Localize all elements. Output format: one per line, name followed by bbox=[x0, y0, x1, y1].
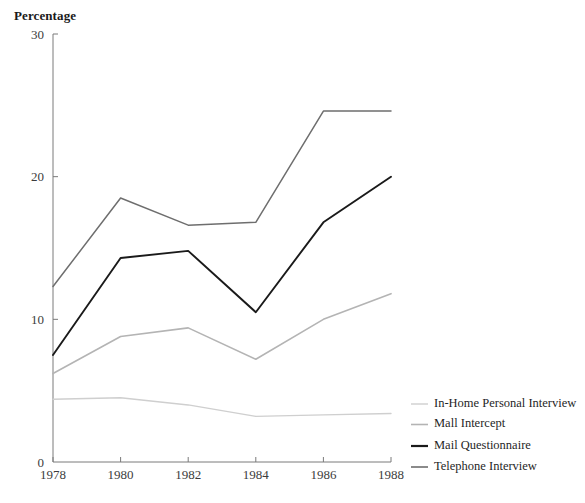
series-line bbox=[53, 177, 391, 355]
chart-legend: In-Home Personal InterviewMall Intercept… bbox=[411, 396, 576, 473]
x-axis-ticks: 197819801982198419861988 bbox=[40, 457, 404, 482]
legend-label: Mail Questionnaire bbox=[434, 438, 531, 452]
series-line bbox=[53, 111, 391, 286]
x-tick-label: 1984 bbox=[243, 467, 270, 482]
y-axis-ticks: 0102030 bbox=[31, 27, 58, 470]
legend-label: Telephone Interview bbox=[434, 459, 537, 473]
legend-label: Mall Intercept bbox=[434, 416, 506, 430]
series-line bbox=[53, 398, 391, 417]
x-tick-label: 1986 bbox=[310, 467, 337, 482]
x-tick-label: 1978 bbox=[40, 467, 66, 482]
y-tick-label: 10 bbox=[31, 312, 44, 327]
y-tick-label: 20 bbox=[31, 169, 44, 184]
chart-container: Percentage 0102030 197819801982198419861… bbox=[0, 0, 585, 503]
legend-label: In-Home Personal Interview bbox=[434, 396, 576, 410]
data-series-group bbox=[53, 111, 391, 416]
y-tick-label: 30 bbox=[31, 27, 44, 42]
x-tick-label: 1982 bbox=[175, 467, 201, 482]
series-line bbox=[53, 294, 391, 374]
line-chart-svg: 0102030 197819801982198419861988 In-Home… bbox=[0, 0, 585, 503]
x-tick-label: 1988 bbox=[378, 467, 404, 482]
x-tick-label: 1980 bbox=[108, 467, 134, 482]
